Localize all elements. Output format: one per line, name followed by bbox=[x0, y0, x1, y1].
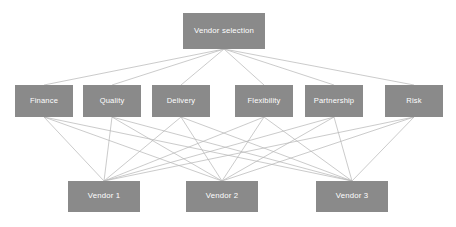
node-label: Flexibility bbox=[248, 97, 281, 105]
edge-c3-a3 bbox=[181, 117, 352, 181]
edge-c4-a1 bbox=[104, 117, 264, 181]
vendor-selection-diagram: Vendor selectionFinanceQualityDeliveryFl… bbox=[0, 0, 456, 227]
edge-c3-a1 bbox=[104, 117, 181, 181]
node-a1[interactable]: Vendor 1 bbox=[68, 181, 140, 212]
edge-c2-a2 bbox=[112, 117, 222, 181]
node-c5[interactable]: Partnership bbox=[305, 85, 363, 117]
node-label: Vendor 2 bbox=[206, 192, 238, 201]
edge-c6-a1 bbox=[104, 117, 414, 181]
node-a3[interactable]: Vendor 3 bbox=[316, 181, 388, 212]
edge-c5-a2 bbox=[222, 117, 334, 181]
node-label: Delivery bbox=[167, 97, 196, 105]
edge-c4-a3 bbox=[264, 117, 352, 181]
node-label: Vendor 1 bbox=[88, 192, 120, 201]
edge-c5-a1 bbox=[104, 117, 334, 181]
edge-c3-a2 bbox=[181, 117, 222, 181]
edge-goal-c1 bbox=[44, 49, 224, 85]
node-c1[interactable]: Finance bbox=[15, 85, 73, 117]
node-c4[interactable]: Flexibility bbox=[235, 85, 293, 117]
node-label: Vendor selection bbox=[194, 27, 254, 36]
edge-goal-c3 bbox=[181, 49, 224, 85]
edge-c6-a2 bbox=[222, 117, 414, 181]
edge-c1-a1 bbox=[44, 117, 104, 181]
node-label: Vendor 3 bbox=[336, 192, 368, 201]
edge-c6-a3 bbox=[352, 117, 414, 181]
edge-c5-a3 bbox=[334, 117, 352, 181]
edge-c2-a3 bbox=[112, 117, 352, 181]
edge-c2-a1 bbox=[104, 117, 112, 181]
node-c2[interactable]: Quality bbox=[83, 85, 141, 117]
edge-c1-a2 bbox=[44, 117, 222, 181]
node-label: Quality bbox=[100, 97, 125, 105]
edge-goal-c5 bbox=[224, 49, 334, 85]
edge-c4-a2 bbox=[222, 117, 264, 181]
node-label: Finance bbox=[30, 97, 58, 105]
node-c6[interactable]: Risk bbox=[385, 85, 443, 117]
node-a2[interactable]: Vendor 2 bbox=[186, 181, 258, 212]
edge-goal-c2 bbox=[112, 49, 224, 85]
node-goal[interactable]: Vendor selection bbox=[183, 13, 265, 49]
edge-goal-c6 bbox=[224, 49, 414, 85]
edge-c1-a3 bbox=[44, 117, 352, 181]
node-c3[interactable]: Delivery bbox=[152, 85, 210, 117]
node-label: Risk bbox=[406, 97, 421, 105]
edge-goal-c4 bbox=[224, 49, 264, 85]
node-label: Partnership bbox=[314, 97, 354, 105]
